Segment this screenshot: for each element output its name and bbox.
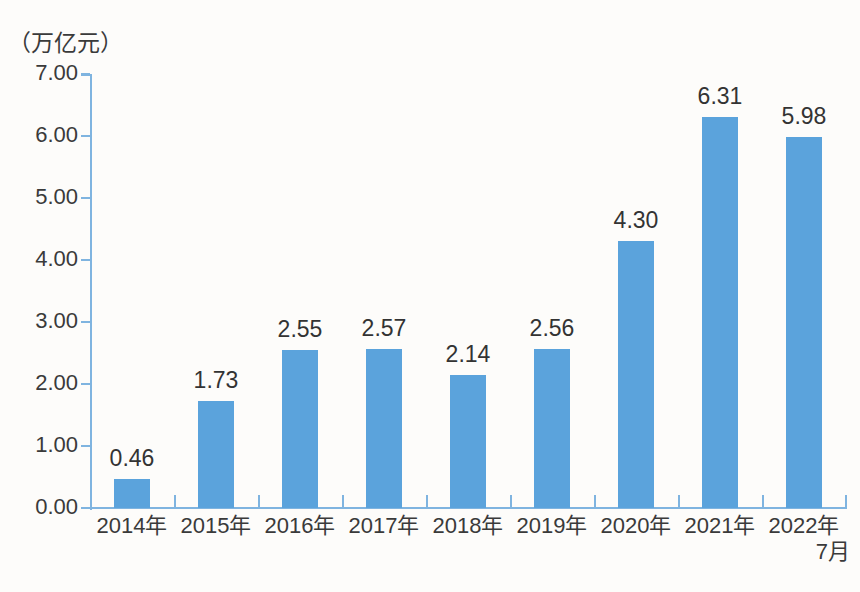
- y-axis-tick-mark: [81, 383, 90, 385]
- bar: [786, 137, 822, 508]
- bar-chart: （万亿元） 0.001.002.003.004.005.006.007.00 0…: [0, 0, 860, 592]
- bar-value-label: 2.56: [502, 317, 602, 340]
- bar: [702, 117, 738, 508]
- y-axis-tick-mark: [81, 135, 90, 137]
- y-axis-tick-mark: [81, 507, 90, 509]
- bar: [618, 241, 654, 508]
- bar-value-label: 4.30: [586, 209, 686, 232]
- x-axis-tick-mark: [342, 495, 344, 508]
- y-axis-tick-label-wrap: 6.00: [0, 124, 78, 146]
- y-axis-tick-label: 5.00: [6, 186, 78, 208]
- x-axis-category-label: 2015年: [168, 513, 264, 539]
- bar-value-label: 2.14: [418, 343, 518, 366]
- y-axis-tick-mark: [81, 259, 90, 261]
- x-axis-tick-mark: [762, 495, 764, 508]
- x-axis-tick-mark: [426, 495, 428, 508]
- y-axis-tick-label: 3.00: [6, 310, 78, 332]
- x-axis-tick-mark: [678, 495, 680, 508]
- x-axis-tick-mark: [594, 495, 596, 508]
- y-axis-tick-mark: [81, 321, 90, 323]
- y-axis-tick-label-wrap: 0.00: [0, 496, 78, 518]
- bar-value-label: 5.98: [754, 105, 854, 128]
- bar-value-label: 1.73: [166, 369, 266, 392]
- y-axis-tick-label: 1.00: [6, 434, 78, 456]
- y-axis-line: [90, 74, 92, 510]
- y-axis-tick-label: 6.00: [6, 124, 78, 146]
- x-axis-tick-mark: [258, 495, 260, 508]
- y-axis-tick-label: 4.00: [6, 248, 78, 270]
- y-axis-tick-label-wrap: 4.00: [0, 248, 78, 270]
- x-axis-category-label: 2016年: [252, 513, 348, 539]
- y-axis-tick-label: 0.00: [6, 496, 78, 518]
- bar: [534, 349, 570, 508]
- y-axis-tick-label-wrap: 7.00: [0, 62, 78, 84]
- y-axis-tick-mark: [81, 197, 90, 199]
- x-axis-category-label: 2021年: [672, 513, 768, 539]
- x-axis-category-label: 2018年: [420, 513, 516, 539]
- bar: [282, 350, 318, 508]
- y-axis-top-tick: [81, 74, 90, 76]
- x-axis-category-label: 2019年: [504, 513, 600, 539]
- x-axis-category-label: 2017年: [336, 513, 432, 539]
- bar: [114, 479, 150, 508]
- x-axis-tick-mark: [510, 495, 512, 508]
- x-axis-category-label: 2020年: [588, 513, 684, 539]
- x-axis-category-label-line2: 7月: [756, 539, 852, 565]
- y-axis-unit-label: （万亿元）: [8, 24, 123, 58]
- bar-value-label: 0.46: [82, 447, 182, 470]
- bar: [450, 375, 486, 508]
- y-axis-tick-label-wrap: 1.00: [0, 434, 78, 456]
- y-axis-tick-label-wrap: 3.00: [0, 310, 78, 332]
- bar: [366, 349, 402, 508]
- y-axis-tick-label-wrap: 5.00: [0, 186, 78, 208]
- y-axis-tick-label: 7.00: [6, 62, 78, 84]
- x-axis-category-label: 2022年7月: [756, 513, 852, 565]
- bar: [198, 401, 234, 508]
- y-axis-tick-label: 2.00: [6, 372, 78, 394]
- x-axis-category-label: 2014年: [84, 513, 180, 539]
- x-axis-end-tick: [845, 495, 847, 509]
- bar-value-label: 2.57: [334, 317, 434, 340]
- y-axis-tick-label-wrap: 2.00: [0, 372, 78, 394]
- x-axis-tick-mark: [174, 495, 176, 508]
